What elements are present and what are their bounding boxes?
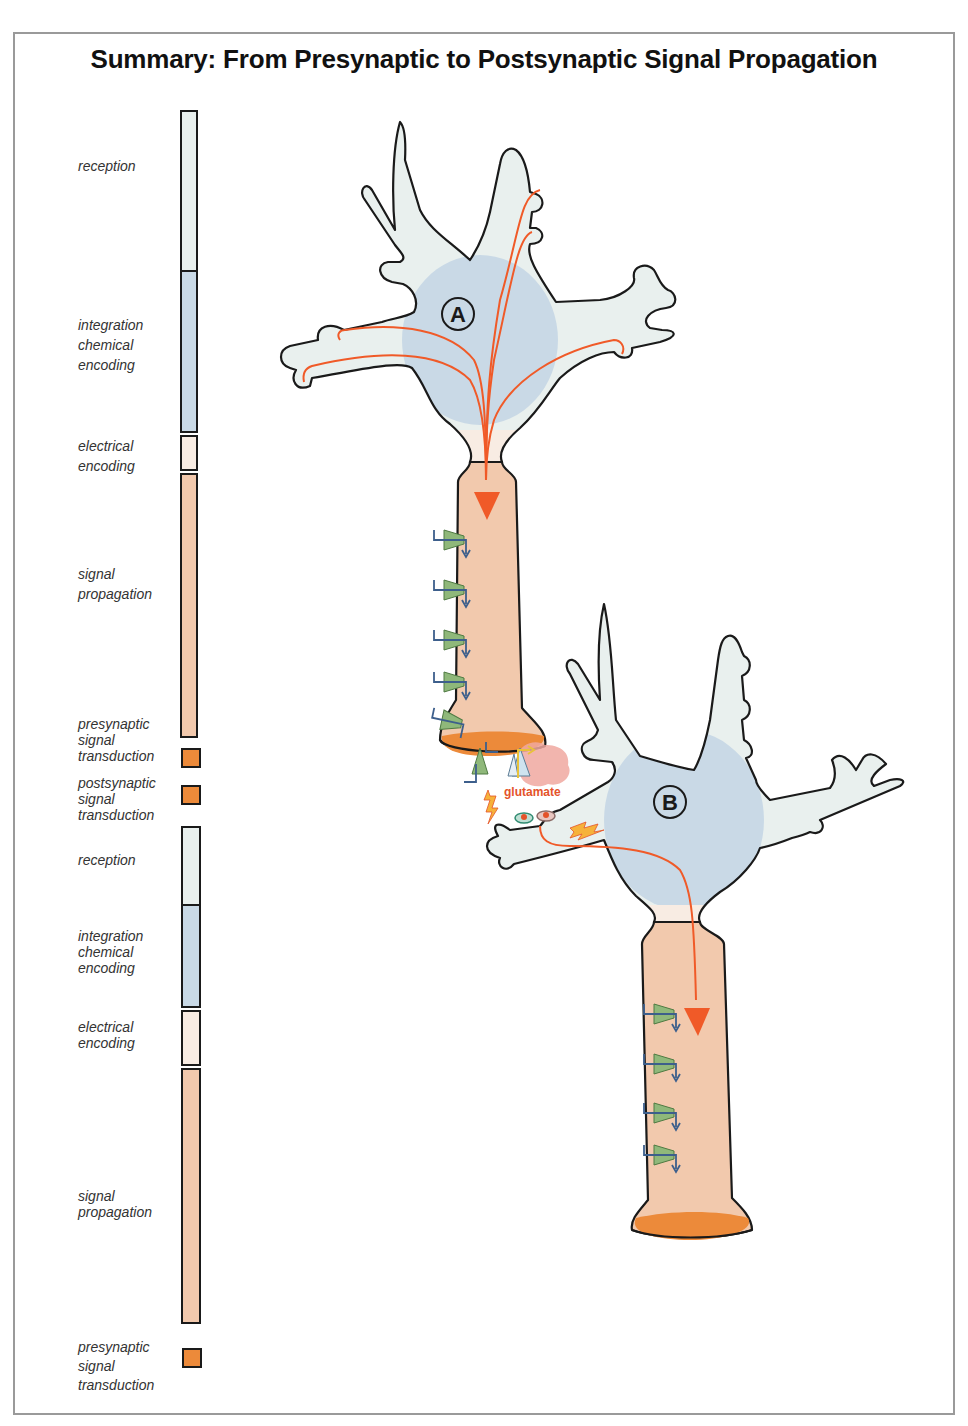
neuron-b-soma	[604, 730, 764, 910]
glutamate-label: glutamate	[504, 785, 561, 799]
lightning-icon	[484, 790, 498, 824]
neuron-b-axon	[632, 922, 752, 1238]
neuron-a: A	[281, 122, 675, 756]
neuron-b: B	[487, 604, 903, 1240]
neuron-b-label: B	[662, 790, 678, 815]
receptor-icons	[515, 811, 555, 823]
glutamate-cloud	[519, 742, 569, 786]
neuron-diagram: A	[0, 0, 968, 1426]
neuron-a-soma	[402, 255, 558, 425]
neuron-a-label: A	[450, 302, 466, 327]
